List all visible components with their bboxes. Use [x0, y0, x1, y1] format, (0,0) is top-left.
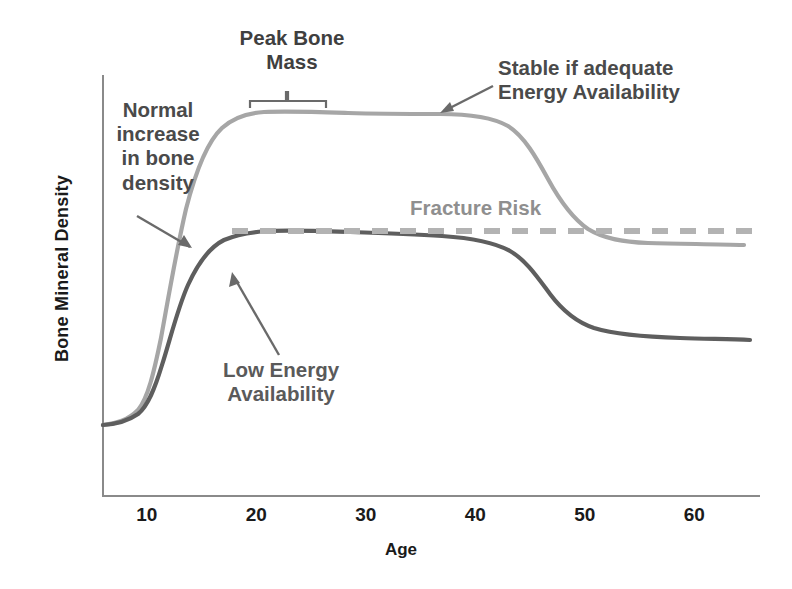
x-tick-label-50: 50 — [561, 504, 609, 526]
peak-bone-mass-bracket — [250, 92, 326, 108]
low-energy-bmd-curve — [103, 231, 750, 425]
x-tick-label-10: 10 — [123, 504, 171, 526]
low-energy-availability-arrow — [229, 272, 279, 355]
annotation-stable-if-adequate: Stable if adequate Energy Availability — [498, 56, 738, 104]
y-axis-label: Bone Mineral Density — [52, 149, 73, 389]
bone-mineral-density-chart: Normal increase in bone density Peak Bon… — [0, 0, 792, 589]
annotation-normal-increase: Normal increase in bone density — [104, 98, 212, 195]
x-tick-label-20: 20 — [232, 504, 280, 526]
x-tick-label-40: 40 — [451, 504, 499, 526]
annotation-low-energy-availability: Low Energy Availability — [206, 358, 356, 406]
x-tick-label-30: 30 — [342, 504, 390, 526]
annotation-peak-bone-mass: Peak Bone Mass — [218, 26, 366, 74]
x-tick-label-60: 60 — [670, 504, 718, 526]
stable-if-adequate-arrow — [440, 86, 493, 113]
annotation-fracture-risk: Fracture Risk — [410, 196, 580, 220]
x-axis-label: Age — [356, 540, 446, 560]
